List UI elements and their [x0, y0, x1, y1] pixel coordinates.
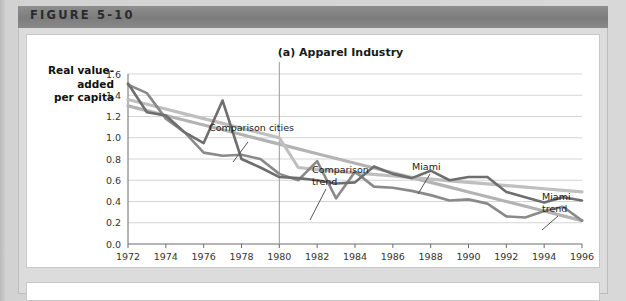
chart-annotation: Comparison: [312, 164, 369, 175]
x-tick-label: 1974: [154, 251, 178, 262]
chart-annotation: trend: [312, 176, 337, 187]
y-tick-label: 0.2: [106, 217, 121, 228]
y-tick-label: 1.2: [106, 111, 121, 122]
x-tick-label: 1978: [229, 251, 253, 262]
x-tick-label: 1984: [343, 251, 367, 262]
figure-root: FIGURE 5-10 (a) Apparel Industry Real va…: [0, 0, 626, 301]
chart-svg: 0.00.20.40.60.81.01.21.41.61972197419761…: [26, 34, 600, 268]
chart-annotation: Miami: [542, 191, 571, 202]
x-tick-label: 1986: [381, 251, 405, 262]
chart-annotation: Miami: [412, 161, 441, 172]
x-tick-label: 1988: [419, 251, 443, 262]
x-tick-label: 1992: [494, 251, 518, 262]
x-tick-label: 1990: [456, 251, 480, 262]
x-tick-label: 1980: [267, 251, 291, 262]
y-tick-label: 0.8: [106, 154, 121, 165]
x-tick-label: 1994: [532, 251, 556, 262]
y-tick-label: 1.4: [106, 90, 121, 101]
series-line-comparison-cities: [128, 85, 582, 221]
annotation-leader-line: [310, 189, 326, 220]
chart-annotation: Comparison cities: [209, 122, 294, 133]
x-tick-label: 1982: [305, 251, 329, 262]
figure-number-label: FIGURE 5-10: [30, 8, 135, 22]
chart-panel-a: (a) Apparel Industry Real value- added p…: [26, 34, 600, 268]
y-tick-label: 0.0: [106, 239, 121, 250]
y-tick-label: 0.6: [106, 175, 121, 186]
y-tick-label: 1.6: [106, 69, 121, 80]
x-tick-label: 1996: [570, 251, 594, 262]
chart-panel-b: [26, 282, 600, 301]
y-tick-label: 1.0: [106, 132, 121, 143]
chart-annotation: trend: [542, 203, 567, 214]
y-tick-label: 0.4: [106, 196, 121, 207]
x-tick-label: 1972: [116, 251, 140, 262]
x-tick-label: 1976: [192, 251, 216, 262]
